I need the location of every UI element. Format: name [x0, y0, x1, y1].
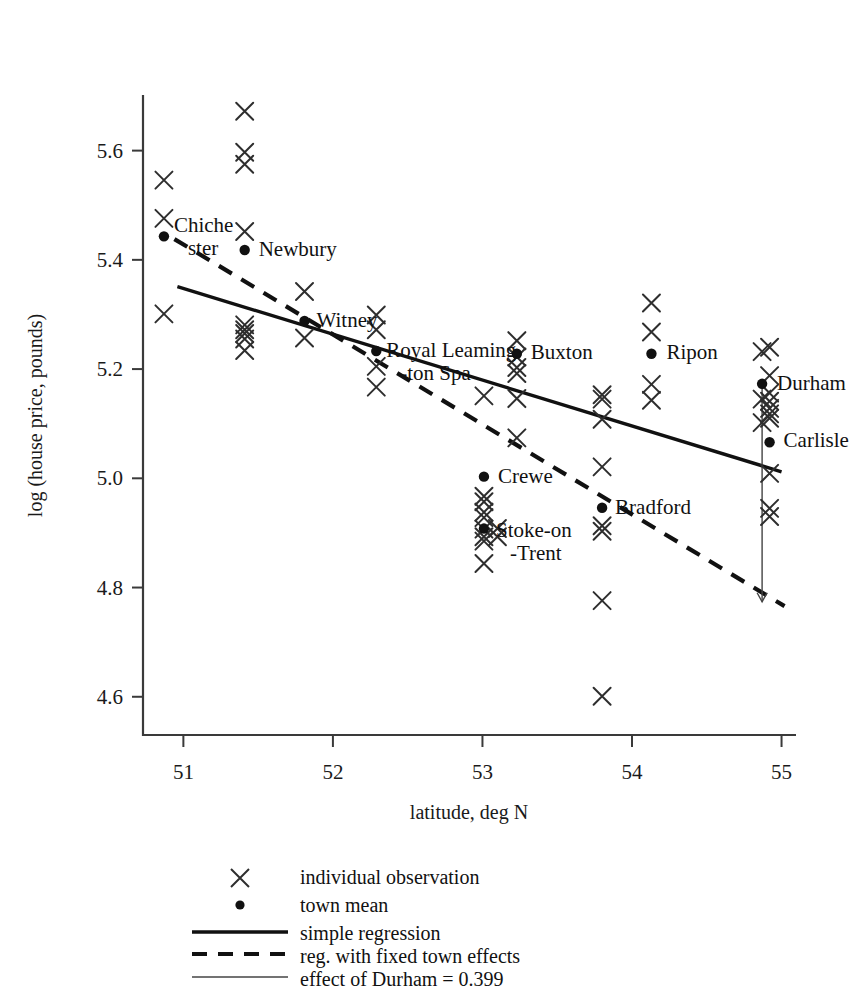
- y-axis-tick-label: 4.6: [97, 685, 123, 709]
- simple-regression-line: [177, 287, 781, 472]
- legend-label: effect of Durham = 0.399: [300, 968, 504, 990]
- observation-marker: [761, 508, 778, 525]
- y-axis-tick-label: 5.0: [97, 466, 123, 490]
- town-mean-marker: [239, 245, 249, 255]
- town-label: Crewe: [498, 464, 553, 488]
- x-axis-tick-label: 55: [771, 760, 792, 784]
- town-label: Durham: [777, 371, 846, 395]
- observation-marker: [368, 379, 385, 396]
- town-label: Stoke-on-Trent: [496, 518, 572, 565]
- axes-layer: 4.64.85.05.25.45.65152535455: [97, 95, 796, 784]
- observation-marker: [594, 688, 611, 705]
- x-axis-tick-label: 53: [472, 760, 493, 784]
- observation-marker: [594, 386, 611, 403]
- town-mean-marker: [757, 379, 767, 389]
- town-mean-marker: [299, 316, 309, 326]
- observation-marker: [643, 294, 660, 311]
- observation-marker: [155, 210, 172, 227]
- town-mean-marker: [646, 349, 656, 359]
- town-label: Royal Leaming-ton Spa: [386, 338, 517, 385]
- observation-marker: [296, 283, 313, 300]
- observation-marker: [236, 342, 253, 359]
- legend-layer: individual observationtown meansimple re…: [192, 866, 520, 990]
- observation-marker: [761, 500, 778, 517]
- legend-label: town mean: [300, 894, 388, 916]
- legend-town-mean-icon: [235, 900, 244, 909]
- town-mean-marker: [371, 346, 381, 356]
- y-axis-tick-label: 5.6: [97, 139, 123, 163]
- observation-marker: [643, 392, 660, 409]
- x-axis-title: latitude, deg N: [410, 801, 528, 824]
- y-axis-tick-label: 5.2: [97, 357, 123, 381]
- legend-label: simple regression: [300, 922, 441, 945]
- town-mean-marker: [764, 437, 774, 447]
- y-axis-tick-label: 5.4: [97, 248, 124, 272]
- y-axis-title: log (house price, pounds): [24, 314, 47, 517]
- observation-marker: [643, 376, 660, 393]
- town-label: Witney: [317, 308, 378, 332]
- town-mean-marker: [597, 503, 607, 513]
- town-label: Ripon: [666, 340, 718, 364]
- legend-label: reg. with fixed town effects: [300, 945, 520, 968]
- town-label: Carlisle: [784, 428, 849, 452]
- observation-marker: [236, 103, 253, 120]
- town-label: Newbury: [259, 237, 338, 261]
- town-mean-marker: [159, 231, 169, 241]
- observation-markers-layer: [155, 103, 778, 705]
- scatter-plot-svg: 4.64.85.05.25.45.65152535455 ChichesterN…: [0, 0, 868, 995]
- town-mean-marker: [479, 471, 489, 481]
- x-axis-tick-label: 52: [322, 760, 343, 784]
- town-label: Bradford: [615, 495, 691, 519]
- observation-marker: [236, 223, 253, 240]
- legend-label: individual observation: [300, 866, 479, 888]
- observation-marker: [475, 555, 492, 572]
- x-axis-tick-label: 54: [622, 760, 644, 784]
- regression-lines-layer: [174, 239, 784, 606]
- x-axis-tick-label: 51: [173, 760, 194, 784]
- town-mean-marker: [479, 523, 489, 533]
- observation-marker: [508, 390, 525, 407]
- fixed-effects-regression-line: [174, 239, 784, 606]
- observation-marker: [236, 156, 253, 173]
- observation-marker: [761, 410, 778, 427]
- observation-marker: [594, 592, 611, 609]
- axis-titles-layer: latitude, deg Nlog (house price, pounds): [24, 314, 528, 824]
- observation-marker: [761, 339, 778, 356]
- chart-figure: 4.64.85.05.25.45.65152535455 ChichesterN…: [0, 0, 868, 995]
- observation-marker: [475, 387, 492, 404]
- y-axis-tick-label: 4.8: [97, 576, 123, 600]
- town-label: Buxton: [531, 340, 593, 364]
- observation-marker: [155, 172, 172, 189]
- town-label: Chichester: [174, 213, 233, 260]
- observation-marker: [594, 391, 611, 408]
- observation-marker: [594, 458, 611, 475]
- observation-marker: [643, 323, 660, 340]
- observation-marker: [155, 305, 172, 322]
- legend-observation-icon: [231, 869, 249, 887]
- observation-marker: [296, 329, 313, 346]
